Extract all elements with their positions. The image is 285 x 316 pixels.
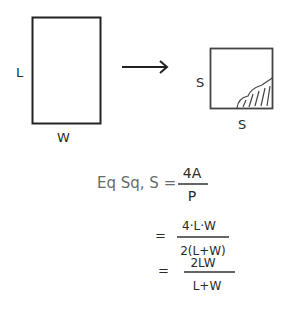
equation-line-2: = 4·L·W 2(L+W) — [155, 219, 229, 258]
equals-sign-3: = — [158, 263, 169, 278]
square-bottom-label: S — [238, 117, 246, 132]
square-side-label: S — [196, 75, 204, 90]
arrow-right-icon — [122, 61, 167, 73]
denominator-3: L+W — [193, 279, 222, 293]
equation-lhs: Eq Sq, S = — [97, 174, 176, 192]
rectangle-length-label: L — [16, 65, 24, 80]
numerator-2: 4·L·W — [182, 219, 216, 233]
hand-drawn-diagram: L W S S Eq Sq, S = 4A P = 4·L·W 2(L+W) =… — [0, 0, 285, 316]
equation-line-1: 4A P — [178, 165, 208, 204]
numerator-3: 2LW — [190, 256, 215, 270]
equals-sign-2: = — [155, 228, 166, 243]
shaded-corner-hatching — [237, 78, 272, 108]
rectangle-shape — [33, 18, 101, 124]
denominator-1: P — [188, 188, 196, 204]
equation-line-3: = 2LW L+W — [158, 256, 235, 293]
numerator-1: 4A — [183, 165, 202, 181]
rectangle-width-label: W — [57, 130, 70, 145]
